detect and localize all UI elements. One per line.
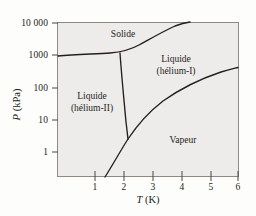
xtick-label-1: 1 [93,182,98,192]
ytick-label-10: 10 [0,115,48,125]
region-helium-ii-line2: (hélium-II) [71,102,113,114]
ytick-label-1: 1 [0,147,48,157]
region-label-vapeur: Vapeur [170,135,197,147]
y-axis-title: P (kPa) [11,75,22,135]
region-label-helium-i: Liquide (hélium-I) [156,54,195,77]
ytick-label-10000: 10 000 [0,18,48,28]
region-helium-i-line1: Liquide [156,54,195,66]
region-label-solide: Solide [111,29,135,41]
region-solide-line1: Solide [111,29,135,41]
region-helium-ii-line1: Liquide [71,91,113,103]
xtick-label-3: 3 [151,182,156,192]
xtick-label-5: 5 [209,182,214,192]
xtick-label-4: 4 [180,182,185,192]
ytick-label-100: 100 [0,83,48,93]
x-axis-unit: (K) [145,194,160,205]
xtick-label-2: 2 [122,182,127,192]
x-axis-title: T (K) [136,194,159,205]
region-label-helium-ii: Liquide (hélium-II) [71,91,113,114]
y-axis-unit: (kPa) [11,89,22,112]
region-helium-i-line2: (hélium-I) [156,65,195,77]
ytick-label-1000: 1000 [0,50,48,60]
xtick-label-6: 6 [236,182,241,192]
y-axis-symbol: P [11,114,22,120]
region-vapeur-line1: Vapeur [170,135,197,147]
phase-diagram-figure: 10 000 1000 100 10 1 1 2 3 4 5 6 P (kPa)… [0,0,256,216]
